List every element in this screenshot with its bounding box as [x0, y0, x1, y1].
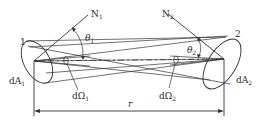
- area-2-label: dA2: [236, 75, 252, 86]
- theta-1-arrow-bottom: [81, 56, 85, 60]
- surface-1-label: 1: [20, 37, 26, 47]
- distance-r-arrow-right: [218, 109, 224, 113]
- area-1-label: dA1: [9, 76, 25, 87]
- solid-angle-1-label: dΩ1: [72, 91, 89, 102]
- radiation-diagram: 1 2 N1 N2 θ1 θ2 dA1 dA2 dΩ1 dΩ2 r: [0, 0, 259, 128]
- solid-angle-2-label: dΩ2: [159, 91, 176, 102]
- theta-1-label: θ1: [85, 33, 94, 44]
- normal-1-label: N1: [91, 9, 103, 20]
- theta-1-arc: [73, 29, 83, 58]
- surface-2-label: 2: [235, 29, 241, 39]
- distance-r-label: r: [128, 99, 133, 109]
- normal-2-label: N2: [162, 9, 174, 20]
- theta-2-label: θ2: [187, 45, 196, 56]
- distance-r-arrow-left: [34, 109, 40, 113]
- solid-angle-1-leader: [67, 64, 78, 90]
- normal-1-line: [34, 15, 88, 61]
